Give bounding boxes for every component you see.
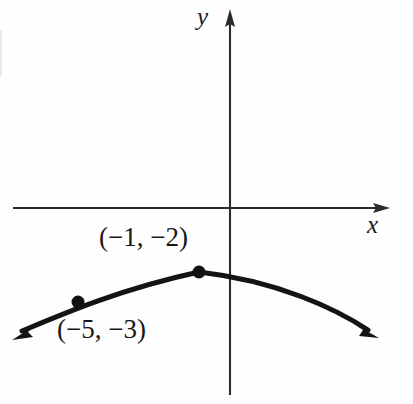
vertex-point-label: (−1, −2) [99, 224, 188, 251]
x-axis-label: x [367, 212, 378, 237]
vertex-point-dot [193, 266, 206, 279]
second-point-label: (−5, −3) [57, 316, 146, 343]
graph-figure: y x (−1, −2) (−5, −3) [0, 0, 413, 404]
second-point-dot [72, 296, 85, 309]
y-axis-label: y [197, 4, 208, 29]
